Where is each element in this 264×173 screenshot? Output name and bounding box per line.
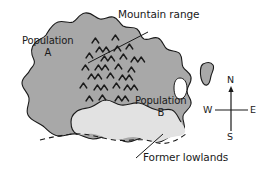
map-illustration	[0, 0, 264, 173]
population-b-letter: B	[135, 108, 187, 119]
compass-east-label: E	[250, 104, 256, 115]
map-figure: Mountain range Former lowlands Populatio…	[0, 0, 264, 173]
compass-west-label: W	[203, 104, 212, 115]
population-b-name: Population	[135, 96, 187, 107]
compass-north-label: N	[227, 74, 234, 85]
former-lowlands-label: Former lowlands	[143, 152, 228, 163]
population-a-name: Population	[22, 36, 74, 47]
offshore-island	[200, 63, 213, 86]
compass-north-arrowhead	[228, 86, 233, 92]
population-b-label: Population B	[135, 96, 187, 119]
population-a-letter: A	[22, 48, 74, 59]
population-a-label: Population A	[22, 36, 74, 59]
compass-south-label: S	[227, 131, 233, 142]
compass-rose	[215, 86, 248, 131]
mountain-range-label: Mountain range	[118, 9, 199, 20]
